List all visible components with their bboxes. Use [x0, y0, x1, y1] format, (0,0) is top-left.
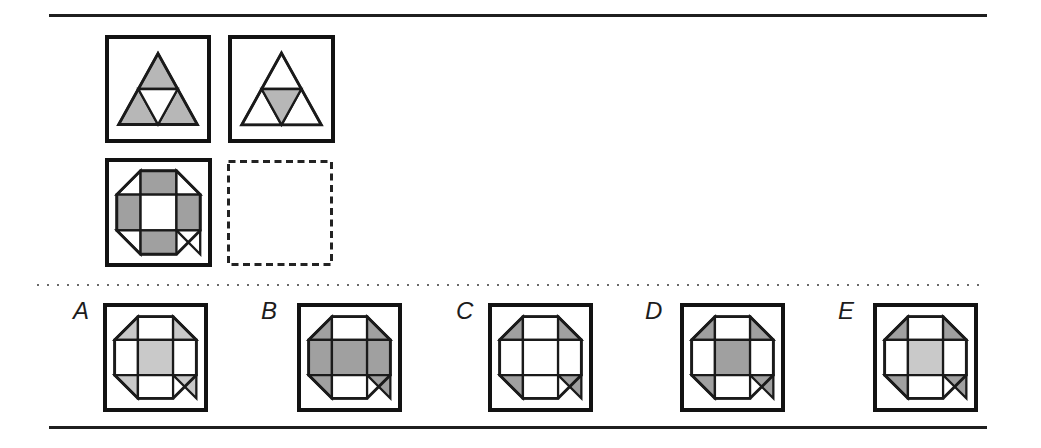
cell-left: [885, 340, 908, 375]
octagon9-svg: [302, 308, 397, 407]
missing-figure-placeholder: [227, 160, 333, 266]
puzzle-page: A B C D E: [0, 0, 1041, 448]
option-e-figure[interactable]: [873, 303, 978, 412]
cell-left: [309, 340, 332, 375]
cell-top: [141, 171, 177, 195]
problem-figure-triangle-2: [228, 35, 335, 143]
cell-right: [558, 340, 581, 375]
cell-right: [367, 340, 390, 375]
cell-right: [173, 340, 196, 375]
option-label-b: B: [261, 298, 277, 324]
cell-top: [332, 317, 367, 340]
cell-center: [523, 340, 558, 375]
cell-right: [176, 195, 200, 231]
dashed-rect: [227, 160, 333, 266]
problem-figure-triangle-1: [105, 35, 211, 143]
cell-bottom: [523, 375, 558, 398]
cell-center: [141, 195, 177, 231]
octagon9-svg: [493, 308, 588, 407]
cell-top: [262, 53, 302, 89]
bottom-rule: [49, 426, 987, 429]
octagon-edge-squares-shaded-svg: [110, 163, 207, 262]
cell-right: [943, 340, 966, 375]
cell-left: [692, 340, 715, 375]
cell-bottom: [715, 375, 750, 398]
cell-top: [908, 317, 943, 340]
cell-left: [500, 340, 523, 375]
cell-center: [138, 340, 173, 375]
dotted-divider: [33, 283, 981, 287]
cell-left: [117, 195, 141, 231]
option-label-c: C: [456, 298, 473, 324]
cell-left: [115, 340, 138, 375]
option-c-figure[interactable]: [488, 303, 593, 412]
cell-right: [750, 340, 773, 375]
option-a-figure[interactable]: [103, 303, 208, 412]
cell-top: [138, 317, 173, 340]
option-label-d: D: [645, 298, 662, 324]
cell-center: [332, 340, 367, 375]
triangle-middle-shaded-svg: [233, 40, 330, 138]
cell-top: [715, 317, 750, 340]
cell-top: [138, 53, 177, 89]
cell-bottom: [141, 230, 177, 254]
octagon9-svg: [108, 308, 203, 407]
cell-bottom: [908, 375, 943, 398]
cell-bottom: [332, 375, 367, 398]
cell-bottom: [138, 375, 173, 398]
cell-center: [715, 340, 750, 375]
octagon9-svg: [878, 308, 973, 407]
option-d-figure[interactable]: [680, 303, 785, 412]
option-b-figure[interactable]: [297, 303, 402, 412]
cell-top: [523, 317, 558, 340]
top-rule: [49, 14, 987, 17]
octagon9-svg: [685, 308, 780, 407]
problem-figure-octagon: [105, 158, 212, 267]
cell-center: [908, 340, 943, 375]
triangle-outer-shaded-svg: [110, 40, 206, 138]
option-label-e: E: [838, 298, 854, 324]
option-label-a: A: [73, 298, 89, 324]
